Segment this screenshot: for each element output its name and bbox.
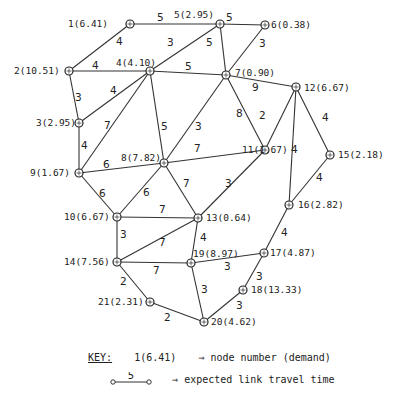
link-8-13 [164, 163, 198, 218]
link-weight: 3 [167, 36, 174, 48]
link-weight: 2 [120, 275, 127, 287]
link-weight: 4 [110, 84, 117, 96]
link-weight: 7 [183, 177, 190, 189]
link-5-6 [220, 24, 265, 25]
link-9-8 [79, 163, 164, 173]
link-10-13 [117, 217, 198, 218]
node-labels-layer: 1(6.41)2(10.51)3(2.95)4(4.10)5(2.95)6(0.… [14, 9, 384, 327]
link-weight: 7 [153, 264, 160, 276]
link-weight: 4 [81, 139, 88, 151]
node-label: 9(1.67) [30, 167, 70, 178]
link-weight: 3 [224, 260, 231, 272]
node-label: 12(6.67) [304, 82, 350, 93]
link-weight: 6 [99, 187, 106, 199]
link-weight: 3 [195, 120, 202, 132]
link-weight: 3 [256, 270, 263, 282]
link-weight: 3 [225, 177, 232, 189]
link-8-10 [117, 163, 164, 217]
node-label: 5(2.95) [174, 9, 214, 20]
link-21-20 [150, 302, 204, 322]
link-weight: 5 [185, 60, 192, 72]
nodes-layer [65, 20, 334, 326]
node-label: 2(10.51) [14, 65, 60, 76]
legend-title: KEY: [88, 352, 112, 363]
link-weight: 8 [236, 107, 243, 119]
link-sample-weight: 5 [128, 372, 134, 381]
link-weight: 4 [322, 111, 329, 123]
legend-arrow-icon: ⇒ [172, 374, 178, 385]
node-label: 21(2.31) [98, 296, 144, 307]
link-weight: 3 [201, 283, 208, 295]
link-weight: 6 [103, 158, 110, 170]
node-label: 15(2.18) [338, 149, 384, 160]
node-label: 6(0.38) [271, 19, 311, 30]
link-15-16 [289, 155, 330, 205]
link-weight: 2 [259, 109, 266, 121]
link-weight: 6 [143, 186, 150, 198]
node-label: 1(6.41) [68, 18, 108, 29]
node-label: 18(13.33) [251, 284, 302, 295]
legend-node-description: node number (demand) [210, 352, 330, 363]
legend: KEY: 1(6.41) ⇒ node number (demand) [88, 352, 331, 363]
link-5-7 [220, 24, 226, 75]
link-weight: 4 [116, 35, 123, 47]
link-4-8 [150, 71, 164, 163]
link-weight: 3 [236, 299, 243, 311]
node-label: 20(4.62) [211, 316, 257, 327]
link-14-19 [117, 262, 191, 263]
link-4-3 [79, 71, 150, 123]
node-label: 10(6.67) [64, 211, 110, 222]
link-weight: 5 [226, 11, 233, 23]
node-label: 19(8.97) [193, 248, 239, 259]
node-label: 14(7.56) [64, 256, 110, 267]
node-label: 8(7.82) [121, 152, 161, 163]
link-weight: 3 [75, 91, 82, 103]
link-weight: 3 [120, 228, 127, 240]
link-weight: 4 [281, 226, 288, 238]
link-weight: 5 [161, 120, 168, 132]
node-label: 4(4.10) [116, 57, 156, 68]
link-weight: 9 [252, 81, 259, 93]
link-weight: 7 [194, 142, 201, 154]
node-label: 17(4.87) [270, 247, 316, 258]
links-layer [69, 24, 330, 322]
node-label: 3(2.95) [36, 117, 76, 128]
link-weight: 4 [291, 143, 298, 155]
legend-arrow-icon: ⇒ [198, 352, 204, 363]
node-label: 13(0.64) [206, 212, 252, 223]
link-weight: 3 [259, 37, 266, 49]
legend-node-example: 1(6.41) [134, 352, 176, 363]
link-14-13 [117, 218, 198, 262]
link-weight: 4 [92, 59, 99, 71]
link-weight: 5 [206, 36, 213, 48]
node-label: 7(0.90) [235, 67, 275, 78]
legend-link-description: expected link travel time [184, 374, 335, 385]
link-weight: 4 [316, 171, 323, 183]
network-diagram: 54535345347593824446766734737447332332 1… [0, 0, 393, 340]
link-12-11 [265, 87, 296, 150]
link-weight: 5 [157, 11, 164, 23]
link-weight: 7 [104, 119, 111, 131]
legend-link-row: 5 ⇒ expected link travel time [110, 372, 335, 388]
link-weight: 2 [164, 311, 171, 323]
link-weight: 7 [159, 236, 166, 248]
link-weight: 4 [200, 231, 207, 243]
link-sample-icon: 5 [110, 372, 154, 388]
node-label: 11(1.67) [242, 144, 288, 155]
node-label: 16(2.82) [298, 199, 344, 210]
link-weight: 7 [159, 203, 166, 215]
